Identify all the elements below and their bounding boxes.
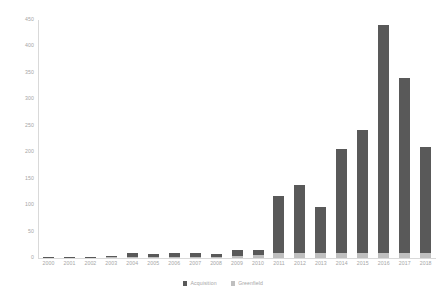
x-axis-tick: 2003 (101, 261, 122, 273)
bar-segment-acquisition[interactable] (43, 257, 54, 258)
bar-column[interactable] (185, 20, 206, 258)
bar-column[interactable] (59, 20, 80, 258)
bar-segment-greenfield[interactable] (420, 253, 431, 258)
x-axis-tick: 2017 (394, 261, 415, 273)
bar-column[interactable] (122, 20, 143, 258)
bar-column[interactable] (248, 20, 269, 258)
bar-column[interactable] (310, 20, 331, 258)
bar-column[interactable] (164, 20, 185, 258)
bar-stack[interactable] (43, 257, 54, 258)
plot-area (38, 20, 436, 258)
bar-column[interactable] (143, 20, 164, 258)
stacked-bar-chart: 450400350300250200150100500 200020012002… (0, 0, 446, 301)
x-axis-tick-labels: 2000200120022003200420052006200720082009… (38, 261, 436, 273)
legend-item[interactable]: Acquisition (183, 281, 217, 286)
x-axis-tick: 2002 (80, 261, 101, 273)
bar-stack[interactable] (148, 254, 159, 258)
bar-segment-greenfield[interactable] (253, 255, 264, 258)
legend-label: Greenfield (238, 281, 263, 286)
bar-column[interactable] (227, 20, 248, 258)
x-axis-tick: 2009 (227, 261, 248, 273)
x-axis-tick: 2013 (310, 261, 331, 273)
bar-segment-greenfield[interactable] (169, 257, 180, 258)
bar-stack[interactable] (106, 256, 117, 258)
y-axis-tick: 50 (6, 229, 34, 234)
y-axis-tick: 150 (6, 176, 34, 181)
bar-column[interactable] (289, 20, 310, 258)
x-axis-tick: 2014 (331, 261, 352, 273)
bar-stack[interactable] (211, 254, 222, 258)
bar-column[interactable] (268, 20, 289, 258)
bar-segment-greenfield[interactable] (378, 253, 389, 258)
bar-segment-acquisition[interactable] (85, 257, 96, 258)
y-axis-tick: 450 (6, 17, 34, 22)
y-axis-tick: 300 (6, 97, 34, 102)
bar-stack[interactable] (64, 257, 75, 258)
bar-segment-greenfield[interactable] (315, 253, 326, 258)
y-axis-tick: 400 (6, 44, 34, 49)
bar-stack[interactable] (253, 250, 264, 258)
legend-swatch-icon (231, 281, 236, 286)
bar-column[interactable] (101, 20, 122, 258)
y-axis-tick: 200 (6, 150, 34, 155)
bar-column[interactable] (373, 20, 394, 258)
chart-legend: AcquisitionGreenfield (0, 281, 446, 286)
bar-segment-acquisition[interactable] (336, 149, 347, 253)
x-axis-tick: 2008 (206, 261, 227, 273)
y-axis-tick: 0 (6, 255, 34, 260)
bar-stack[interactable] (169, 253, 180, 258)
bar-segment-greenfield[interactable] (148, 257, 159, 258)
x-axis-tick: 2010 (248, 261, 269, 273)
bar-stack[interactable] (294, 185, 305, 259)
legend-label: Acquisition (190, 281, 216, 286)
x-axis-tick: 2006 (164, 261, 185, 273)
x-axis-line (38, 258, 436, 259)
bar-segment-acquisition[interactable] (294, 185, 305, 254)
bar-segment-greenfield[interactable] (232, 256, 243, 258)
bar-segment-greenfield[interactable] (106, 257, 117, 258)
bar-column[interactable] (331, 20, 352, 258)
bar-segment-acquisition[interactable] (273, 196, 284, 253)
bar-segment-greenfield[interactable] (190, 257, 201, 258)
x-axis-tick: 2004 (122, 261, 143, 273)
bar-stack[interactable] (85, 257, 96, 258)
bar-stack[interactable] (127, 253, 138, 258)
bar-stack[interactable] (232, 250, 243, 258)
y-axis-tick: 350 (6, 70, 34, 75)
bar-stack[interactable] (420, 147, 431, 258)
bar-segment-greenfield[interactable] (273, 253, 284, 258)
bar-segment-greenfield[interactable] (357, 253, 368, 258)
bar-stack[interactable] (336, 149, 347, 258)
bar-segment-acquisition[interactable] (315, 207, 326, 254)
bar-stack[interactable] (315, 207, 326, 258)
bar-segment-acquisition[interactable] (378, 25, 389, 252)
x-axis-tick: 2015 (352, 261, 373, 273)
bar-stack[interactable] (399, 78, 410, 258)
bar-segment-acquisition[interactable] (357, 130, 368, 253)
x-axis-tick: 2011 (268, 261, 289, 273)
y-axis-tick: 250 (6, 123, 34, 128)
bar-column[interactable] (415, 20, 436, 258)
x-axis-tick: 2005 (143, 261, 164, 273)
bar-column[interactable] (352, 20, 373, 258)
y-axis-tick-labels: 450400350300250200150100500 (0, 20, 34, 258)
bar-segment-acquisition[interactable] (64, 257, 75, 258)
bar-segment-acquisition[interactable] (399, 78, 410, 253)
bar-segment-greenfield[interactable] (211, 257, 222, 258)
legend-item[interactable]: Greenfield (231, 281, 263, 286)
bar-column[interactable] (38, 20, 59, 258)
bar-stack[interactable] (357, 130, 368, 259)
bar-segment-greenfield[interactable] (336, 253, 347, 258)
bar-column[interactable] (206, 20, 227, 258)
bar-column[interactable] (80, 20, 101, 258)
bar-stack[interactable] (378, 25, 389, 258)
x-axis-tick: 2001 (59, 261, 80, 273)
bar-segment-greenfield[interactable] (127, 257, 138, 258)
bar-stack[interactable] (190, 253, 201, 258)
bar-column[interactable] (394, 20, 415, 258)
bar-segment-greenfield[interactable] (399, 253, 410, 258)
bar-stack[interactable] (273, 196, 284, 258)
y-axis-tick: 100 (6, 203, 34, 208)
bar-segment-greenfield[interactable] (294, 253, 305, 258)
bar-segment-acquisition[interactable] (420, 147, 431, 253)
